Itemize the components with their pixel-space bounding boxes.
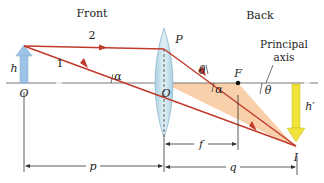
principal-axis-leader bbox=[266, 65, 273, 83]
dim-f-arrow-right bbox=[232, 142, 237, 146]
image-arrow-shaft bbox=[292, 84, 300, 128]
alpha-left-label: α bbox=[114, 70, 122, 83]
object-arrow-shaft bbox=[20, 54, 28, 83]
object-distance-label: p bbox=[89, 160, 96, 173]
theta-right-tick bbox=[260, 83, 262, 94]
alpha-right-label: α bbox=[215, 83, 223, 96]
dim-q-arrow-left bbox=[165, 165, 170, 169]
image-height-label: h′ bbox=[305, 100, 315, 113]
lens-point-p-label: P bbox=[174, 33, 183, 46]
theta-left-label: θ bbox=[199, 64, 206, 77]
theta-right-label: θ bbox=[265, 84, 272, 97]
front-label: Front bbox=[76, 7, 108, 20]
object-point-label: O bbox=[19, 87, 28, 100]
dim-f-arrow-left bbox=[165, 142, 170, 146]
ray-1-label: 1 bbox=[57, 57, 64, 70]
object-height-label: h bbox=[10, 62, 17, 75]
image-arrow-head bbox=[287, 128, 305, 142]
ray-2-refracted bbox=[164, 49, 296, 146]
principal-axis-label-line1: Principal bbox=[260, 38, 308, 50]
focal-point-label: F bbox=[233, 67, 242, 80]
principal-axis-label-line2: axis bbox=[274, 51, 295, 63]
dim-q-arrow-right bbox=[291, 165, 296, 169]
ray-2-direction-arrow bbox=[99, 45, 107, 51]
focal-point-dot bbox=[236, 81, 241, 86]
ray-2-label: 2 bbox=[89, 29, 96, 42]
lens-diagram: Front Back 2 1 h O O P F I h′ α θ α θ Pr… bbox=[0, 0, 324, 183]
image-distance-label: q bbox=[229, 161, 236, 174]
dim-p-arrow-right bbox=[158, 164, 163, 168]
image-point-label: I bbox=[293, 151, 299, 164]
ray-2-incident bbox=[24, 46, 164, 49]
dim-p-arrow-left bbox=[25, 164, 30, 168]
lens-center-label: O bbox=[161, 87, 170, 100]
back-label: Back bbox=[246, 9, 274, 22]
